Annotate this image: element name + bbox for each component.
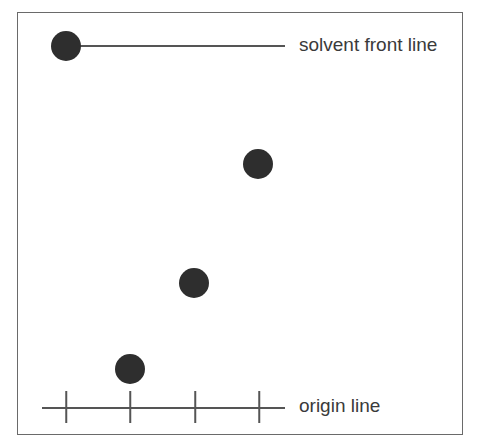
origin-tick-1 xyxy=(65,391,67,423)
origin-tick-2 xyxy=(129,391,131,423)
origin-tick-3 xyxy=(194,391,196,423)
spot-2 xyxy=(115,354,145,384)
solvent-front-label: solvent front line xyxy=(299,34,437,56)
origin-label: origin line xyxy=(299,395,380,417)
solvent-front-line xyxy=(66,45,285,47)
spot-3 xyxy=(179,268,209,298)
spot-4 xyxy=(243,149,273,179)
origin-tick-4 xyxy=(258,391,260,423)
tlc-plate-frame xyxy=(17,12,463,435)
origin-line xyxy=(42,407,285,409)
solvent-front-spot xyxy=(51,31,81,61)
